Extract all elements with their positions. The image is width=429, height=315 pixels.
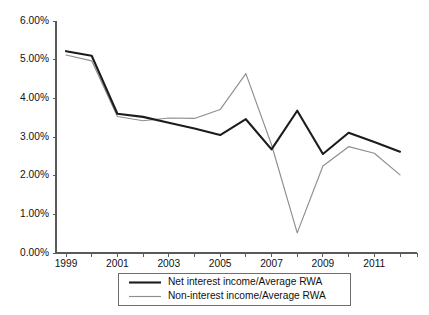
y-tick-label: 1.00%	[20, 208, 49, 219]
line-chart: 0.00%1.00%2.00%3.00%4.00%5.00%6.00% 1999…	[0, 0, 429, 315]
y-tick-label: 5.00%	[20, 53, 49, 64]
y-tick-label: 2.00%	[20, 169, 49, 180]
x-tick-label: 2001	[106, 258, 129, 269]
x-tick-label: 2011	[363, 258, 385, 269]
x-tick-label: 2005	[209, 258, 232, 269]
chart-canvas: 0.00%1.00%2.00%3.00%4.00%5.00%6.00% 1999…	[0, 0, 429, 315]
x-tick-label: 2007	[260, 258, 283, 269]
y-tick-label: 3.00%	[20, 131, 49, 142]
x-tick-label: 2009	[312, 258, 335, 269]
x-tick-label: 2003	[157, 258, 180, 269]
data-series-group	[66, 51, 400, 233]
legend-label-net-interest-income: Net interest income/Average RWA	[168, 276, 323, 287]
series-line-net-interest-income	[66, 51, 400, 154]
y-tick-label: 4.00%	[20, 92, 49, 103]
y-tick-label: 6.00%	[20, 15, 49, 26]
series-line-non-interest-income	[66, 55, 400, 233]
chart-legend: Net interest income/Average RWANon-inter…	[118, 273, 350, 305]
x-axis: 1999200120032005200720092011	[55, 253, 417, 269]
x-tick-label: 1999	[55, 258, 78, 269]
legend-label-non-interest-income: Non-interest income/Average RWA	[168, 290, 326, 301]
y-tick-label: 0.00%	[20, 247, 49, 258]
y-axis: 0.00%1.00%2.00%3.00%4.00%5.00%6.00%	[20, 15, 56, 258]
